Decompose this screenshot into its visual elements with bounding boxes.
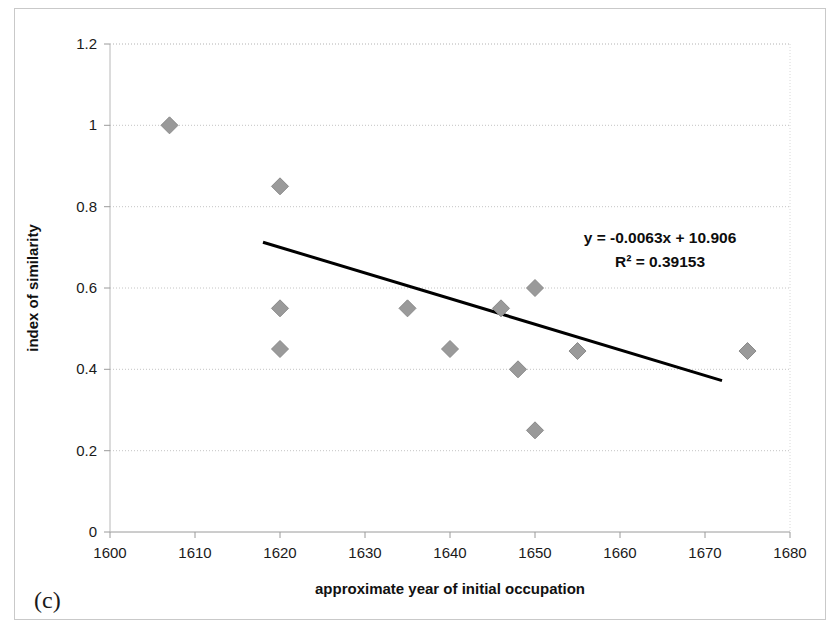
y-tick-label: 0.6: [76, 279, 97, 296]
x-tick-label: 1610: [178, 544, 211, 561]
data-point-marker: [510, 361, 527, 378]
y-tick-label: 1.2: [76, 35, 97, 52]
panel-label: (c): [34, 587, 61, 613]
x-axis-title: approximate year of initial occupation: [315, 580, 585, 597]
data-point-marker: [527, 422, 544, 439]
x-tick-label: 1620: [263, 544, 296, 561]
y-tick-label: 1: [89, 116, 97, 133]
data-point-marker: [399, 300, 416, 317]
x-tick-label: 1680: [773, 544, 806, 561]
data-point-marker: [272, 300, 289, 317]
scatter-plot: 00.20.40.60.811.216001610162016301640165…: [0, 0, 840, 641]
y-tick-label: 0.2: [76, 442, 97, 459]
x-tick-label: 1670: [688, 544, 721, 561]
data-point-marker: [569, 343, 586, 360]
x-tick-label: 1630: [348, 544, 381, 561]
data-point-marker: [272, 178, 289, 195]
x-tick-label: 1660: [603, 544, 636, 561]
trendline-equation: y = -0.0063x + 10.906: [584, 229, 737, 246]
data-point-marker: [161, 117, 178, 134]
x-tick-label: 1640: [433, 544, 466, 561]
data-point-marker: [527, 280, 544, 297]
data-point-marker: [272, 341, 289, 358]
y-tick-label: 0.8: [76, 198, 97, 215]
data-point-marker: [442, 341, 459, 358]
x-tick-label: 1600: [93, 544, 126, 561]
figure-panel: 00.20.40.60.811.216001610162016301640165…: [0, 0, 840, 641]
r-squared-label: R² = 0.39153: [615, 253, 705, 270]
y-tick-label: 0: [89, 523, 97, 540]
x-tick-label: 1650: [518, 544, 551, 561]
data-point-marker: [739, 343, 756, 360]
y-tick-label: 0.4: [76, 360, 97, 377]
y-axis-title: index of similarity: [24, 224, 41, 352]
